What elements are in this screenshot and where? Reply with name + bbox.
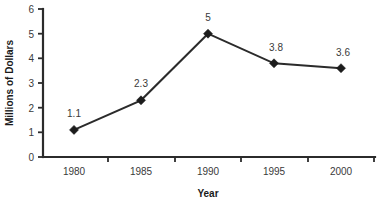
chart-canvas: 6 5 4 3 2 1 0 1980 1985 1990 1995 2000 Y… (0, 0, 387, 207)
x-axis-title: Year (197, 188, 218, 199)
y-tick-label-0: 0 (28, 152, 34, 163)
data-label-2000: 3.6 (336, 47, 350, 58)
x-tick-label-1990: 1990 (197, 166, 220, 177)
data-label-1995: 3.8 (269, 42, 283, 53)
line-chart: 6 5 4 3 2 1 0 1980 1985 1990 1995 2000 Y… (0, 0, 387, 207)
y-axis-title: Millions of Dollars (4, 40, 15, 127)
x-tick-label-1980: 1980 (63, 166, 86, 177)
y-tick-label-4: 4 (28, 53, 34, 64)
y-tick-label-6: 6 (28, 4, 34, 15)
x-tick-label-1985: 1985 (130, 166, 153, 177)
y-tick-label-2: 2 (28, 103, 34, 114)
data-label-1980: 1.1 (67, 108, 81, 119)
y-tick-label-3: 3 (28, 78, 34, 89)
data-label-1985: 2.3 (134, 78, 148, 89)
y-tick-label-5: 5 (28, 29, 34, 40)
x-tick-label-1995: 1995 (263, 166, 286, 177)
data-label-1990: 5 (205, 12, 211, 23)
y-tick-label-1: 1 (28, 127, 34, 138)
x-tick-label-2000: 2000 (330, 166, 353, 177)
